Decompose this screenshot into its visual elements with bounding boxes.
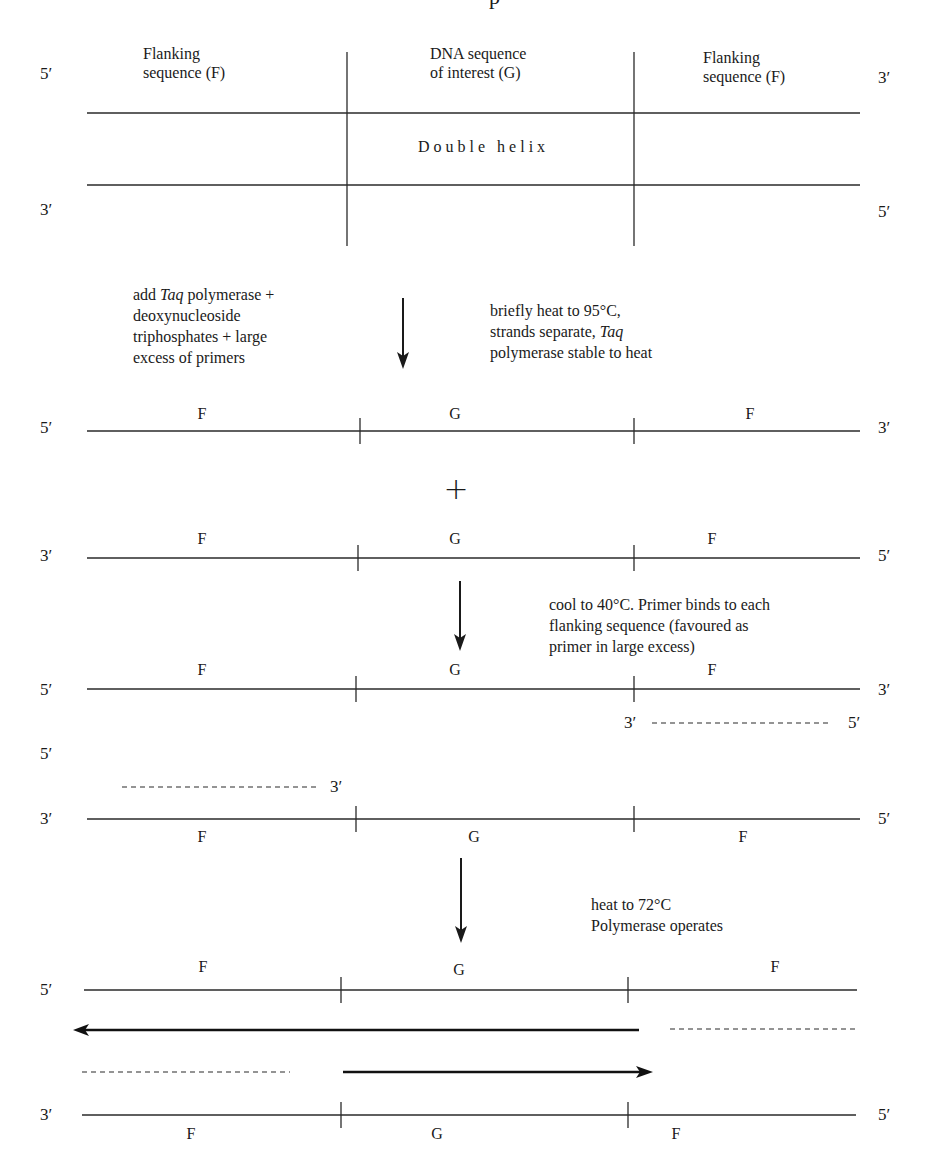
segment-label-g: G (453, 960, 465, 980)
step2-anneal-note: cool to 40°C. Primer binds to each flank… (549, 594, 770, 657)
segment-label-g: G (431, 1124, 443, 1144)
end-label-5prime: 5′ (878, 202, 890, 222)
end-label: 5′ (40, 418, 52, 438)
end-label-5prime: 5′ (40, 64, 52, 84)
end-label: 3′ (40, 546, 52, 566)
flanking-right-label: Flanking sequence (F) (703, 48, 785, 86)
primer-end-label: 3′ (330, 777, 342, 797)
segment-label-f: F (198, 660, 207, 680)
end-label: 5′ (878, 809, 890, 829)
end-label-3prime: 3′ (40, 200, 52, 220)
flanking-left-label: Flanking sequence (F) (143, 44, 225, 82)
double-helix-label: Double helix (418, 137, 549, 157)
segment-label-g: G (449, 404, 461, 424)
segment-label-g: G (468, 827, 480, 847)
end-label: 5′ (40, 980, 52, 1000)
down-arrow-icon (455, 858, 467, 943)
primer-end-label: 3′ (624, 713, 636, 733)
segment-label-f: F (198, 529, 207, 549)
segment-label-f: F (746, 404, 755, 424)
segment-label-f: F (708, 529, 717, 549)
segment-label-g: G (449, 660, 461, 680)
segment-label-f: F (739, 827, 748, 847)
segment-label-f: F (708, 660, 717, 680)
cropped-title-fragment: p (489, 0, 500, 7)
segment-label-f: F (771, 957, 780, 977)
segment-label-f: F (187, 1124, 196, 1144)
step3-extension-note: heat to 72°C Polymerase operates (591, 894, 723, 936)
step1-denature-note: briefly heat to 95°C, strands separate, … (490, 300, 652, 363)
segment-label-g: G (449, 529, 461, 549)
end-label: 5′ (40, 680, 52, 700)
sequence-of-interest-label: DNA sequence of interest (G) (430, 44, 526, 82)
primer-annealing (87, 676, 860, 832)
end-label: 5′ (878, 546, 890, 566)
end-label: 3′ (878, 680, 890, 700)
end-label: 5′ (878, 1105, 890, 1125)
end-label: 3′ (40, 809, 52, 829)
extension (82, 977, 857, 1128)
end-label-3prime: 3′ (878, 68, 890, 88)
end-label: 3′ (40, 1105, 52, 1125)
end-label: 3′ (878, 418, 890, 438)
pcr-diagram: p 5′ 3′ 3′ 5′ Flanking sequence (F) DNA … (0, 0, 935, 1176)
diagram-lines (0, 0, 935, 1176)
step1-reagents-note: add Taq polymerase + deoxynucleoside tri… (133, 284, 274, 368)
primer-end-label: 5′ (848, 713, 860, 733)
segment-label-f: F (199, 957, 208, 977)
new-strand-left-arrow-icon (73, 1024, 639, 1036)
segment-label-f: F (198, 827, 207, 847)
segment-label-f: F (672, 1124, 681, 1144)
down-arrow-icon (397, 298, 409, 369)
down-arrow-icon (454, 581, 466, 651)
segment-label-f: F (198, 404, 207, 424)
primer-end-label: 5′ (40, 744, 52, 764)
new-strand-right-arrow-icon (343, 1066, 653, 1078)
plus-icon: + (443, 474, 468, 504)
